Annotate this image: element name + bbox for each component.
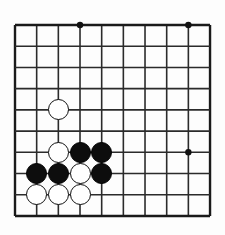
star-point-c9-r1 [185,22,191,28]
star-point-c9-r7 [185,149,191,155]
stone-white-c4-r9[interactable] [70,184,91,205]
star-point-c4-r1 [77,22,83,28]
go-board-diagram [0,0,225,235]
stone-black-c3-r8[interactable] [48,163,69,184]
stone-white-c3-r9[interactable] [48,184,69,205]
stone-white-c3-r7[interactable] [48,142,69,163]
stone-white-c4-r8[interactable] [70,163,91,184]
stone-black-c4-r7[interactable] [70,142,91,163]
stone-black-c5-r7[interactable] [91,142,112,163]
